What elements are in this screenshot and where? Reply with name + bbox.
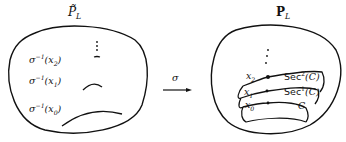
label-sec2-c: Sec2(C) (284, 72, 320, 82)
point-x0 (267, 102, 270, 105)
fiber-x0 (62, 111, 122, 126)
diagram-canvas: P̃L σ−1(x2) σ−1(x1) σ−1(x0) σ PL x2 x1 x… (0, 0, 346, 142)
label-x2: x2 (246, 71, 255, 81)
label-sec1-c: Sec1(C) (284, 87, 320, 97)
point-x1 (266, 90, 269, 93)
label-sigma-inverse-x2: σ−1(x2) (29, 55, 61, 65)
right-space-outline (211, 25, 340, 134)
point-x2 (266, 75, 270, 79)
left-title: P̃L (68, 6, 81, 18)
label-x0: x0 (245, 100, 254, 110)
label-sigma-inverse-x0: σ−1(x0) (29, 104, 61, 114)
label-sigma-inverse-x1: σ−1(x1) (29, 76, 61, 86)
arrow-head-icon (186, 88, 192, 92)
label-x1: x1 (244, 87, 253, 97)
fiber-x1 (83, 84, 102, 90)
label-c: C (298, 101, 305, 111)
arrow-label-sigma: σ (172, 73, 179, 83)
right-title: PL (276, 6, 290, 18)
fiber-x2 (94, 57, 100, 58)
